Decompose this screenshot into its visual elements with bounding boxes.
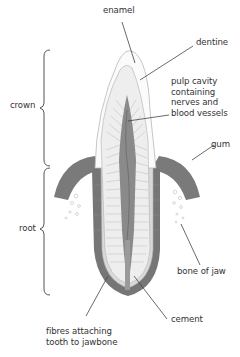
- label-gum: gum: [211, 139, 230, 150]
- label-crown: crown: [10, 100, 35, 111]
- label-fibres-line-2: tooth to jawbone: [46, 337, 117, 348]
- label-enamel: enamel: [103, 5, 134, 16]
- label-fibres: fibres attaching tooth to jawbone: [46, 326, 117, 347]
- root-bracket: [40, 168, 50, 295]
- label-bone-of-jaw: bone of jaw: [177, 266, 226, 277]
- label-dentine: dentine: [196, 37, 228, 48]
- label-pulp-line-2: containing: [171, 87, 228, 98]
- label-pulp-line-1: pulp cavity: [171, 76, 228, 87]
- label-pulp-line-3: nerves and: [171, 97, 228, 108]
- root-canal: [125, 240, 130, 290]
- tooth-diagram: [0, 0, 240, 357]
- label-pulp-line-4: blood vessels: [171, 108, 228, 119]
- label-pulp-cavity: pulp cavity containing nerves and blood …: [171, 76, 228, 118]
- crown-bracket: [40, 50, 50, 166]
- label-root: root: [19, 223, 36, 234]
- label-cement: cement: [171, 314, 203, 325]
- label-fibres-line-1: fibres attaching: [46, 326, 117, 337]
